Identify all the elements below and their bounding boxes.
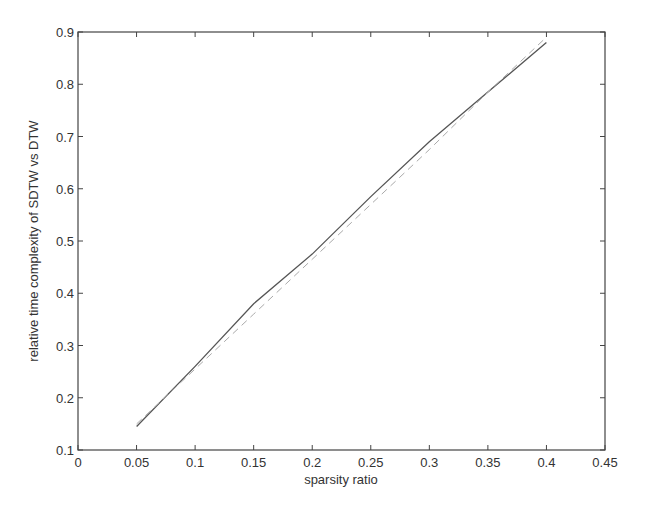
y-tick-label: 0.1 xyxy=(56,443,74,458)
y-tick-label: 0.5 xyxy=(56,234,74,249)
y-tick-label: 0.9 xyxy=(56,25,74,40)
y-tick-label: 0.7 xyxy=(56,130,74,145)
series-line-measured xyxy=(137,42,547,426)
y-tick-label: 0.2 xyxy=(56,391,74,406)
y-tick-label: 0.8 xyxy=(56,77,74,92)
x-tick-label: 0.25 xyxy=(358,455,383,470)
x-tick-label: 0.2 xyxy=(303,455,321,470)
x-axis-ticks: 00.050.10.150.20.250.30.350.40.45 xyxy=(74,32,617,470)
x-tick-label: 0.3 xyxy=(420,455,438,470)
y-axis-ticks: 0.10.20.30.40.50.60.70.80.9 xyxy=(56,25,605,458)
x-tick-label: 0.35 xyxy=(475,455,500,470)
y-tick-label: 0.6 xyxy=(56,182,74,197)
line-chart: 00.050.10.150.20.250.30.350.40.45 0.10.2… xyxy=(0,0,650,512)
x-tick-label: 0.05 xyxy=(124,455,149,470)
x-tick-label: 0.1 xyxy=(186,455,204,470)
x-axis-label: sparsity ratio xyxy=(304,472,378,487)
y-axis-label: relative time complexity of SDTW vs DTW xyxy=(26,120,41,362)
x-tick-label: 0 xyxy=(74,455,81,470)
x-tick-label: 0.15 xyxy=(241,455,266,470)
series-layer xyxy=(137,37,547,426)
y-tick-label: 0.3 xyxy=(56,339,74,354)
x-tick-label: 0.4 xyxy=(537,455,555,470)
plot-area xyxy=(78,32,605,450)
y-tick-label: 0.4 xyxy=(56,286,74,301)
plot-border xyxy=(78,32,605,450)
x-tick-label: 0.45 xyxy=(592,455,617,470)
